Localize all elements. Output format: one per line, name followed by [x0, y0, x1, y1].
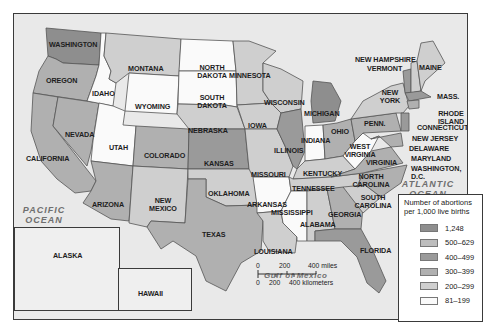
scale-km-200: 200: [269, 279, 280, 286]
legend-swatch: [420, 268, 438, 276]
label-kansas: KANSAS: [204, 160, 234, 168]
legend: Number of abortions per 1,000 live birth…: [398, 194, 483, 322]
legend-swatch: [420, 224, 438, 232]
legend-label: 400–499: [445, 253, 474, 262]
label-oregon: OREGON: [46, 77, 77, 85]
label-north-dakota: NORTH DAKOTA: [194, 64, 230, 79]
legend-title: Number of abortions per 1,000 live birth…: [404, 199, 479, 216]
legend-label: 1,248: [445, 224, 464, 233]
label-alaska: ALASKA: [53, 252, 82, 260]
label-missouri: MISSOURI: [251, 171, 286, 179]
label-virginia: VIRGINIA: [366, 159, 397, 167]
label-nebraska: NEBRASKA: [188, 127, 228, 135]
label-south-carolina: SOUTH CAROLINA: [352, 194, 394, 209]
label-hawaii: HAWAII: [138, 290, 163, 298]
label-maine: MAINE: [419, 64, 442, 72]
label-colorado: COLORADO: [144, 152, 185, 160]
label-nevada: NEVADA: [65, 131, 94, 139]
legend-label: 500–629: [445, 238, 474, 247]
label-montana: MONTANA: [128, 65, 164, 73]
label-illinois: ILLINOIS: [274, 147, 304, 155]
label-mass: MASS.: [437, 93, 459, 101]
label-utah: UTAH: [109, 144, 128, 152]
legend-item: 200–299: [404, 279, 479, 294]
state-colorado: [133, 126, 189, 169]
label-indiana: INDIANA: [301, 137, 330, 145]
label-maryland: MARYLAND: [411, 155, 451, 163]
label-tennessee: TENNESSEE: [292, 185, 335, 193]
scale-km-400: 400 kilometers: [289, 279, 333, 286]
label-south-dakota: SOUTH DAKOTA: [194, 94, 230, 109]
label-idaho: IDAHO: [92, 90, 115, 98]
scale-km-0: 0: [256, 279, 260, 286]
legend-label: 200–299: [445, 282, 474, 291]
label-washington: WASHINGTON: [49, 41, 97, 49]
label-west-virginia: WEST VIRGINIA: [340, 143, 380, 158]
label-penn: PENN.: [364, 120, 385, 128]
label-mississippi: MISSISSIPPI: [271, 209, 313, 217]
label-florida: FLORIDA: [360, 247, 391, 255]
label-wisconsin: WISCONSIN: [264, 99, 305, 107]
state-connecticut: [407, 100, 419, 109]
label-california: CALIFORNIA: [26, 155, 69, 163]
legend-item: 400–499: [404, 250, 479, 265]
legend-item: 81–199: [404, 294, 479, 309]
label-kentucky: KENTUCKY: [303, 170, 342, 178]
label-minnesota: MINNESOTA: [229, 72, 271, 80]
alaska-inset: ALASKA: [14, 227, 120, 311]
label-oklahoma: OKLAHOMA: [208, 190, 250, 198]
legend-item: 1,248: [404, 221, 479, 236]
label-new-mexico: NEW MEXICO: [145, 197, 181, 212]
label-pacific-ocean: PACIFIC OCEAN: [18, 205, 70, 225]
legend-label: 300–399: [445, 267, 474, 276]
legend-swatch: [420, 297, 438, 305]
legend-item: 300–399: [404, 265, 479, 280]
label-ohio: OHIO: [331, 128, 349, 136]
hawaii-inset: HAWAII: [118, 268, 192, 311]
legend-swatch: [420, 282, 438, 290]
label-georgia: GEORGIA: [328, 211, 361, 219]
label-arizona: ARIZONA: [92, 201, 124, 209]
label-north-carolina: NORTH CAROLINA: [350, 173, 392, 188]
label-new-york: NEW YORK: [377, 89, 403, 104]
legend-swatch: [420, 239, 438, 247]
label-delaware: DELAWARE: [409, 145, 449, 153]
label-michigan: MICHIGAN: [304, 110, 340, 118]
legend-swatch: [420, 253, 438, 261]
label-alabama: ALABAMA: [300, 221, 336, 229]
label-texas: TEXAS: [202, 231, 225, 239]
label-connecticut: CONNECTICUT: [417, 124, 468, 132]
state-new-jersey: [401, 113, 409, 131]
label-new-jersey: NEW JERSEY: [412, 135, 458, 143]
label-louisiana: LOUISIANA: [254, 248, 293, 256]
scale-bar: 0 200 400 miles 0 200 400 kilometers: [256, 262, 366, 292]
label-vermont: VERMONT: [367, 65, 402, 73]
label-washington-dc: WASHINGTON, D.C.: [411, 165, 459, 180]
label-iowa: IOWA: [248, 122, 267, 130]
scale-line: [256, 262, 366, 292]
state-utah: [91, 103, 136, 166]
state-mass: [405, 91, 431, 101]
legend-label: 81–199: [445, 296, 470, 305]
label-new-hampshire: NEW HAMPSHIRE: [355, 56, 416, 64]
label-wyoming: WYOMING: [135, 103, 170, 111]
legend-item: 500–629: [404, 236, 479, 251]
